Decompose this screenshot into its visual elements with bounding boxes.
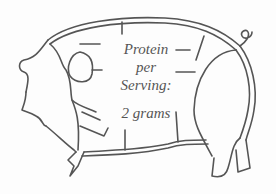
protein-label: Protein per Serving: 2 grams bbox=[112, 40, 180, 122]
label-line-per: per bbox=[112, 58, 180, 76]
label-line-serving: Serving: bbox=[112, 76, 180, 94]
protein-amount: 2 grams bbox=[112, 104, 180, 122]
label-line-protein: Protein bbox=[112, 40, 180, 58]
pig-diagram: Protein per Serving: 2 grams bbox=[0, 0, 276, 194]
